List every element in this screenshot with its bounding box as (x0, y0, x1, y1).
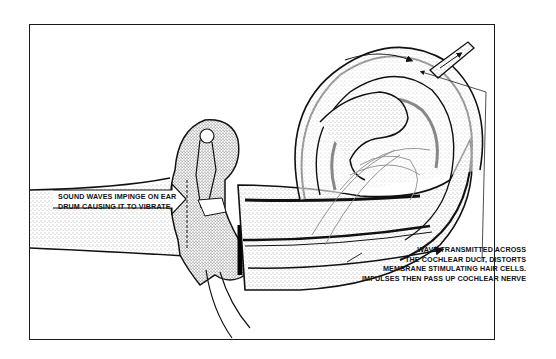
middle-ear-ossicles (171, 120, 250, 338)
wave-line-1: WAVE TRANSMITTED ACROSS (362, 245, 526, 255)
wave-line-3: MEMBRANE STIMULATING HAIR CELLS. (362, 264, 526, 274)
wave-line-4: IMPULSES THEN PASS UP COCHLEAR NERVE (362, 274, 526, 284)
wave-transmitted-label: WAVE TRANSMITTED ACROSS THE COCHLEAR DUC… (362, 245, 526, 283)
sound-waves-line-1: SOUND WAVES IMPINGE ON EAR (58, 192, 176, 202)
wave-line-2: THE COCHLEAR DUCT, DISTORTS (362, 255, 526, 265)
cochlea-illustration (0, 0, 556, 359)
sound-waves-label: SOUND WAVES IMPINGE ON EAR DRUM CAUSING … (58, 192, 176, 211)
sound-waves-line-2: DRUM CAUSING IT TO VIBRATE (58, 202, 176, 212)
